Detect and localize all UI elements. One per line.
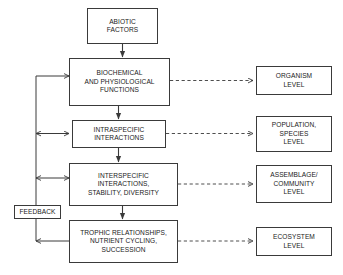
node-trophic-relationships: TROPHIC RELATIONSHIPS, NUTRIENT CYCLING,… <box>69 220 178 263</box>
ecosystem-level-line-2: LEVEL <box>284 242 305 250</box>
node-abiotic-factors: ABIOTIC FACTORS <box>87 8 158 44</box>
biochemical-line-3: FUNCTIONS <box>100 86 139 94</box>
community-level-line-2: COMMUNITY <box>273 180 314 188</box>
node-organism-level: ORGANISM LEVEL <box>256 66 332 95</box>
node-population-species-level: POPULATION, SPECIES LEVEL <box>256 116 332 152</box>
population-level-line-1: POPULATION, <box>272 121 316 129</box>
organism-level-line-2: LEVEL <box>284 81 305 89</box>
node-biochemical-physiological-functions: BIOCHEMICAL AND PHYSIOLOGICAL FUNCTIONS <box>69 58 170 106</box>
population-level-line-2: SPECIES <box>280 130 309 138</box>
ecology-hierarchy-diagram: ABIOTIC FACTORS BIOCHEMICAL AND PHYSIOLO… <box>0 0 343 275</box>
trophic-line-1: TROPHIC RELATIONSHIPS, <box>80 229 167 237</box>
biochemical-line-1: BIOCHEMICAL <box>97 69 143 77</box>
population-level-line-3: LEVEL <box>284 138 305 146</box>
community-level-line-1: ASSEMBLAGE/ <box>270 171 317 179</box>
interspecific-line-1: INTERSPECIFIC <box>98 172 149 180</box>
node-assemblage-community-level: ASSEMBLAGE/ COMMUNITY LEVEL <box>256 165 332 203</box>
intraspecific-line-1: INTRASPECIFIC <box>94 126 145 134</box>
abiotic-line-1: ABIOTIC <box>109 18 136 26</box>
community-level-line-3: LEVEL <box>284 188 305 196</box>
intraspecific-line-2: INTERACTIONS <box>94 134 144 142</box>
feedback-line-1: FEEDBACK <box>20 208 56 216</box>
interspecific-line-2: INTERACTIONS, <box>98 180 150 188</box>
node-ecosystem-level: ECOSYSTEM LEVEL <box>256 227 332 256</box>
organism-level-line-1: ORGANISM <box>276 72 312 80</box>
node-feedback-label: FEEDBACK <box>14 205 61 219</box>
interspecific-line-3: STABILITY, DIVERSITY <box>88 189 159 197</box>
trophic-line-2: NUTRIENT CYCLING, <box>90 237 157 245</box>
trophic-line-3: SUCCESSION <box>101 246 145 254</box>
ecosystem-level-line-1: ECOSYSTEM <box>273 233 315 241</box>
abiotic-line-2: FACTORS <box>107 26 138 34</box>
node-intraspecific-interactions: INTRASPECIFIC INTERACTIONS <box>72 120 166 148</box>
biochemical-line-2: AND PHYSIOLOGICAL <box>84 78 154 86</box>
node-interspecific-interactions: INTERSPECIFIC INTERACTIONS, STABILITY, D… <box>69 163 178 206</box>
